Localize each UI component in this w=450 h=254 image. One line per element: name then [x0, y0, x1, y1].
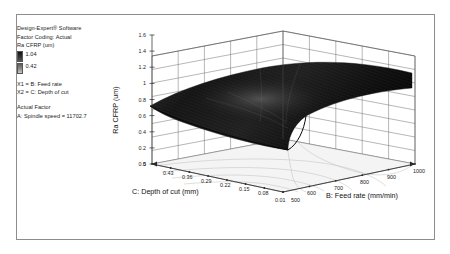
x-axis-title: C: Depth of cut (mm) — [132, 187, 199, 196]
y-tick-2: 700 — [334, 185, 343, 191]
surface-plot: 1.6 1.4 1.2 1 0.8 0.6 0.4 0.2 0 Ra CFRP … — [110, 18, 435, 240]
x-tick-3: 0.29 — [201, 178, 212, 184]
surface-highlight — [150, 62, 412, 150]
y-tick-4: 900 — [387, 174, 396, 180]
x-tick-0: 0.5 — [139, 161, 147, 167]
x-tick-7: 0.01 — [275, 197, 286, 203]
color-scale-bar-high — [17, 51, 23, 62]
response-surface — [150, 62, 412, 150]
z-tick-4: 0.8 — [139, 97, 147, 103]
x-tick-6: 0.08 — [258, 190, 269, 196]
z-tick-1: 0.2 — [139, 145, 147, 151]
z-tick-8: 1.6 — [139, 32, 147, 38]
y-tick-5: 1000 — [413, 168, 425, 174]
scale-low-value: 0.42 — [26, 63, 37, 70]
x-tick-2: 0.36 — [182, 174, 193, 180]
screenshot-root: Design-Expert® Software Factor Coding: A… — [0, 0, 450, 254]
color-scale-bar-low — [17, 63, 23, 74]
z-tick-6: 1.2 — [139, 64, 147, 70]
z-tick-3: 0.6 — [139, 113, 147, 119]
z-axis: 1.6 1.4 1.2 1 0.8 0.6 0.4 0.2 0 Ra CFRP … — [111, 32, 155, 167]
z-tick-5: 1 — [143, 80, 146, 86]
y-tick-3: 800 — [360, 179, 369, 185]
x-tick-4: 0.22 — [220, 182, 231, 188]
y-axis-title: B: Feed rate (mm/min) — [326, 191, 398, 200]
scale-high-value: 1.04 — [26, 51, 37, 58]
z-tick-2: 0.4 — [139, 129, 147, 135]
x-tick-5: 0.15 — [239, 186, 250, 192]
x-tick-1: 0.43 — [163, 170, 174, 176]
y-tick-1: 600 — [307, 190, 316, 196]
z-tick-7: 1.4 — [139, 48, 147, 54]
y-tick-0: 500 — [291, 197, 300, 203]
surface-plot-svg: 1.6 1.4 1.2 1 0.8 0.6 0.4 0.2 0 Ra CFRP … — [110, 18, 435, 240]
z-axis-title: Ra CFRP (um) — [111, 86, 120, 133]
